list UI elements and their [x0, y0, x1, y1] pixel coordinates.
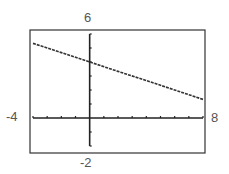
line-series: [33, 43, 203, 99]
ymax-label: 6: [84, 10, 91, 25]
function-graph: [33, 43, 203, 99]
axes: [33, 34, 203, 146]
ymin-label: -2: [80, 155, 92, 170]
graph-screen: [0, 0, 229, 174]
xmax-label: 8: [211, 110, 218, 125]
xmin-label: -4: [6, 109, 18, 124]
